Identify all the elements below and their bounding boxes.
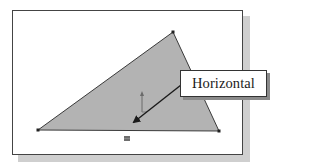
vertex-point-bottom-right[interactable] [218,130,221,133]
callout-label: Horizontal [192,75,255,92]
vertex-point-bottom-left[interactable] [37,129,40,132]
vertex-point-apex[interactable] [172,31,175,34]
callout-label-box: Horizontal [180,70,267,97]
